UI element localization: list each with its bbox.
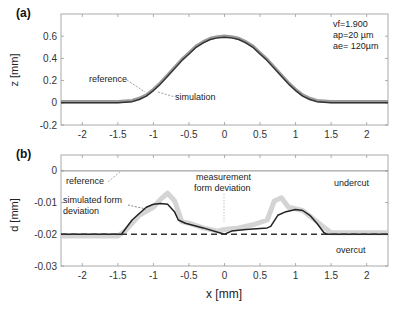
y-tick-label: 0 [51,97,57,108]
figure: (a) -2-1.5-1-0.500.511.52 -0.200.20.40.6… [0,0,404,309]
x-tick-label: -0.5 [180,129,198,140]
annotation-overcut: overcut [336,245,366,255]
y-tick-label: 0 [51,165,57,176]
annotation-reference: reference [89,74,127,84]
y-tick-label: 0.2 [43,75,57,86]
annotation-simulation: simulation [175,92,216,102]
y-tick-label: -0.03 [34,261,57,272]
y-tick-label: 0.4 [43,53,57,64]
annotation-reference: reference [66,176,104,186]
annotation-form-deviation: form deviation [194,183,251,193]
x-tick-label: -1 [149,129,158,140]
x-tick-label: 0 [222,270,228,281]
panel-a: (a) -2-1.5-1-0.500.511.52 -0.200.20.40.6… [8,6,388,140]
axes-b-ylabel: d [mm] [8,198,20,232]
x-tick-label: 2 [364,270,370,281]
panel-b-label: (b) [16,147,31,161]
param-ae: ae= 120µm [333,41,378,51]
annotation-undercut: undercut [334,178,370,188]
x-tick-label: -1.5 [109,129,127,140]
annotation-deviation: deviation [63,206,99,216]
annotation-simulated-form: simulated form [63,195,122,205]
panel-b: (b) -2-1.5-1-0.500.511.52 -0.03-0.02-0.0… [8,147,388,301]
x-tick-label: 0 [222,129,228,140]
x-tick-label: -2 [78,270,87,281]
y-tick-label: 0.6 [43,31,57,42]
param-vf: vf=1.900 [333,19,368,29]
x-tick-label: -1 [149,270,158,281]
chart-canvas: (a) -2-1.5-1-0.500.511.52 -0.200.20.40.6… [0,0,404,309]
x-tick-label: 1.5 [324,129,338,140]
y-tick-label: -0.2 [40,120,58,131]
panel-a-label: (a) [16,6,31,20]
x-tick-label: 0.5 [253,129,267,140]
annotation-measurement: measurement [196,172,252,182]
axes-a-ylabel: z [mm] [8,54,20,87]
x-tick-label: -0.5 [180,270,198,281]
x-tick-label: -1.5 [109,270,127,281]
x-tick-label: 2 [364,129,370,140]
y-tick-label: -0.02 [34,229,57,240]
x-tick-label: 1 [293,270,299,281]
x-tick-label: -2 [78,129,87,140]
x-tick-label: 1.5 [324,270,338,281]
y-tick-label: -0.01 [34,197,57,208]
x-tick-label: 1 [293,129,299,140]
param-ap: ap=20 µm [333,30,373,40]
x-tick-label: 0.5 [253,270,267,281]
axes-b-xlabel: x [mm] [206,287,242,301]
